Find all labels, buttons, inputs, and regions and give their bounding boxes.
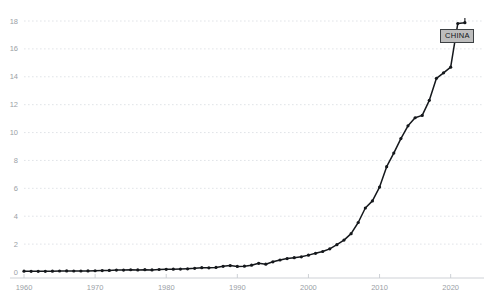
data-point xyxy=(335,243,338,246)
data-point xyxy=(378,185,381,188)
data-point xyxy=(364,206,367,209)
data-point xyxy=(30,270,33,273)
data-point xyxy=(86,269,89,272)
data-point xyxy=(51,270,54,273)
gridlines xyxy=(24,21,482,244)
data-point xyxy=(207,266,210,269)
data-point xyxy=(158,268,161,271)
data-point xyxy=(172,268,175,271)
x-tick-label: 2020 xyxy=(442,283,459,292)
x-axis-ticks: 1960197019801990200020102020 xyxy=(16,274,459,292)
data-point xyxy=(165,268,168,271)
data-point xyxy=(414,116,417,119)
y-tick-label: 18 xyxy=(10,17,18,26)
data-point xyxy=(442,71,445,74)
y-tick-label: 8 xyxy=(14,156,18,165)
data-point xyxy=(456,22,459,25)
data-point xyxy=(186,267,189,270)
data-point xyxy=(44,270,47,273)
data-point xyxy=(399,137,402,140)
y-tick-label: 10 xyxy=(10,128,18,137)
data-point xyxy=(229,264,232,267)
plot-area: 1960197019801990200020102020 02468101214… xyxy=(0,0,484,303)
data-point xyxy=(278,258,281,261)
data-point xyxy=(371,199,374,202)
data-point xyxy=(101,269,104,272)
data-point xyxy=(193,267,196,270)
data-point xyxy=(150,268,153,271)
data-point xyxy=(257,262,260,265)
y-tick-label: 4 xyxy=(14,212,18,221)
data-point xyxy=(108,269,111,272)
data-point xyxy=(136,268,139,271)
y-tick-label: 2 xyxy=(14,240,18,249)
data-point xyxy=(271,260,274,263)
x-tick-label: 1970 xyxy=(87,283,104,292)
data-point xyxy=(129,268,132,271)
data-point xyxy=(328,247,331,250)
data-point xyxy=(22,270,25,273)
data-point xyxy=(428,99,431,102)
data-point xyxy=(200,266,203,269)
x-tick-label: 1990 xyxy=(229,283,246,292)
data-point xyxy=(58,269,61,272)
data-point xyxy=(406,124,409,127)
data-point xyxy=(286,257,289,260)
data-point xyxy=(179,267,182,270)
data-point xyxy=(37,270,40,273)
y-tick-label: 6 xyxy=(14,184,18,193)
data-point xyxy=(421,114,424,117)
data-point xyxy=(350,232,353,235)
data-point xyxy=(236,265,239,268)
data-point xyxy=(307,254,310,257)
data-point xyxy=(214,266,217,269)
line-chart: 1960197019801990200020102020 02468101214… xyxy=(0,0,484,303)
x-tick-label: 2010 xyxy=(371,283,388,292)
x-tick-label: 1960 xyxy=(16,283,33,292)
y-tick-label: 12 xyxy=(10,100,18,109)
data-point xyxy=(293,256,296,259)
data-point xyxy=(357,221,360,224)
data-point xyxy=(435,77,438,80)
y-tick-label: 0 xyxy=(14,268,18,277)
data-point xyxy=(122,268,125,271)
series-label-china: CHINA xyxy=(440,29,474,43)
y-tick-label: 16 xyxy=(10,44,18,53)
data-point xyxy=(385,165,388,168)
data-point xyxy=(300,255,303,258)
x-tick-label: 1980 xyxy=(158,283,175,292)
data-point xyxy=(392,151,395,154)
data-point xyxy=(449,66,452,69)
data-point xyxy=(342,238,345,241)
data-point xyxy=(264,263,267,266)
data-point xyxy=(243,265,246,268)
data-point xyxy=(321,250,324,253)
data-point xyxy=(65,269,68,272)
y-axis-ticks: 024681012141618 xyxy=(10,17,18,277)
data-point xyxy=(250,264,253,267)
data-point xyxy=(314,252,317,255)
data-point xyxy=(79,269,82,272)
data-point xyxy=(115,268,118,271)
data-point xyxy=(143,268,146,271)
data-point xyxy=(222,265,225,268)
y-tick-label: 14 xyxy=(10,72,18,81)
data-point xyxy=(94,269,97,272)
series-china xyxy=(22,21,466,273)
x-tick-label: 2000 xyxy=(300,283,317,292)
data-point xyxy=(72,269,75,272)
